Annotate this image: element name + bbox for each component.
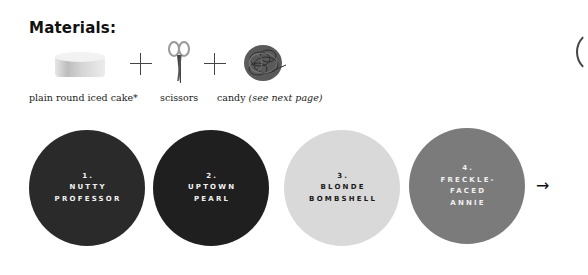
plus-icon [130,53,152,75]
style-name-line: BOMBSHELL [309,194,377,206]
plus-icon [204,53,226,75]
materials-title: Materials: [29,19,116,37]
style-name-line: PROFESSOR [55,194,122,206]
style-circle-nutty-professor: 1. NUTTY PROFESSOR [29,130,145,246]
style-number: 1. [82,171,94,183]
candy-caption: candy (see next page) [217,92,323,103]
arrow-right-icon: → [536,178,549,194]
style-name-line: PEARL [194,194,230,206]
style-circle-blonde-bombshell: 3. BLONDE BOMBSHELL [284,130,400,246]
style-name-line: FRECKLE- [440,175,495,187]
candy-icon [242,43,288,83]
style-name-line: BLONDE [321,182,366,194]
style-name-line: ANNIE [450,198,486,210]
candy-caption-note: (see next page) [249,92,323,103]
cake-caption: plain round iced cake* [29,92,138,103]
scissors-icon [166,41,192,84]
style-number: 4. [462,163,474,175]
partial-circle-edge [576,30,588,74]
candy-caption-label: candy [217,92,246,103]
style-name-line: NUTTY [69,182,106,194]
cake-icon [55,52,105,78]
style-name-line: UPTOWN [188,182,236,194]
style-circle-freckle-faced-annie: 4. FRECKLE- FACED ANNIE [409,128,525,244]
scissors-caption: scissors [160,92,198,103]
style-number: 3. [337,171,349,183]
style-name-line: FACED [450,186,486,198]
style-number: 2. [206,171,218,183]
style-circle-uptown-pearl: 2. UPTOWN PEARL [153,130,269,246]
